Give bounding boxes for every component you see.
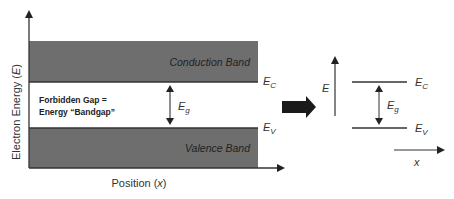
y-axis-title: Electron Energy (E): [10, 64, 22, 160]
band-diagram: Conduction Band Valence Band Forbidden G…: [0, 0, 454, 199]
gap-label-line2: Energy “Bandgap”: [39, 107, 115, 117]
left-diagram: Conduction Band Valence Band Forbidden G…: [10, 12, 283, 189]
ec-label-right: EC: [415, 76, 428, 91]
eg-label-right: Eg: [387, 99, 399, 114]
energy-axis-label: E: [322, 82, 330, 94]
ev-label-right: EV: [415, 122, 428, 137]
x-axis-title: Position (x): [111, 177, 166, 189]
gap-label-line1: Forbidden Gap =: [39, 95, 107, 105]
conduction-band-label: Conduction Band: [169, 56, 251, 68]
ec-label: EC: [263, 75, 276, 90]
valence-band-label: Valence Band: [185, 142, 251, 154]
right-diagram: E Eg EC EV x: [322, 58, 443, 168]
ev-label: EV: [263, 121, 276, 136]
position-axis-label: x: [413, 156, 420, 168]
block-right-arrow-icon: [282, 96, 316, 118]
eg-label: Eg: [178, 100, 190, 115]
